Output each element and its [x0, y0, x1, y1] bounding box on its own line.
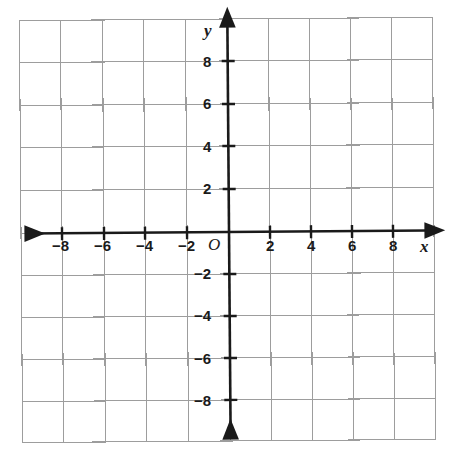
y-tick-label: −8 [194, 393, 211, 408]
x-tick-label: −4 [136, 238, 153, 253]
origin-label: O [208, 236, 220, 253]
x-tick-label: −2 [178, 238, 195, 253]
x-tick-label: −6 [94, 238, 111, 253]
coordinate-plane-figure: −8−6−4−224688642−2−4−6−8 x y O [0, 0, 453, 469]
x-axis-label: x [420, 238, 429, 255]
x-tick-label: −8 [52, 238, 69, 253]
x-tick-label: 6 [348, 238, 356, 253]
x-tick-label: 4 [307, 238, 315, 253]
x-tick-label: 8 [389, 238, 397, 253]
x-axis-line [27, 230, 427, 233]
y-tick-label: 8 [203, 54, 211, 69]
y-tick-label: −4 [194, 308, 211, 323]
x-tick-label: 2 [266, 238, 274, 253]
y-tick-label: 2 [203, 181, 211, 196]
coordinate-plane-svg [0, 0, 453, 469]
y-tick-label: 6 [203, 96, 211, 111]
y-tick-label: −2 [194, 266, 211, 281]
y-tick-label: 4 [203, 139, 211, 154]
y-axis-line [227, 25, 230, 437]
y-axis-label: y [204, 22, 212, 39]
y-tick-label: −6 [194, 351, 211, 366]
